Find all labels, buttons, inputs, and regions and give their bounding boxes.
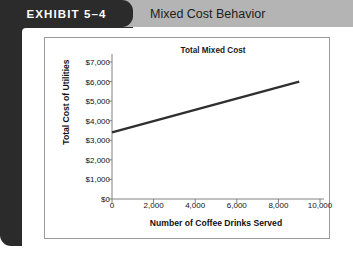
x-tick-label: 6,000 — [227, 201, 247, 210]
mixed-cost-line — [112, 82, 299, 133]
x-tick-label: 4,000 — [185, 201, 205, 210]
exhibit-number-label: EXHIBIT 5–4 — [27, 8, 107, 20]
x-tick-label: 2,000 — [144, 201, 164, 210]
exhibit-number-tab: EXHIBIT 5–4 — [0, 0, 133, 27]
x-tick-label: 0 — [110, 201, 114, 210]
x-tick-label: 8,000 — [268, 201, 288, 210]
exhibit-title: Mixed Cost Behavior — [150, 0, 265, 27]
exhibit-header-band: EXHIBIT 5–4 Mixed Cost Behavior — [0, 0, 353, 27]
chart-container: Total Mixed Cost Total Cost of Utilities… — [44, 37, 330, 239]
x-tick-label: 10,000 — [308, 201, 332, 210]
